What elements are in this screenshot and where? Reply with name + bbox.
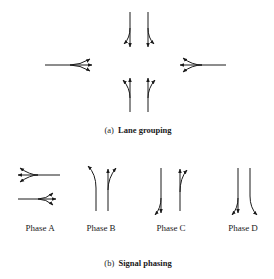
caption-a-text: Lane grouping (118, 125, 171, 135)
caption-b-text: Signal phasing (119, 258, 172, 268)
caption-lane-grouping: (a) Lane grouping (104, 125, 171, 135)
west-approach-arrow (45, 59, 92, 71)
caption-b-letter: (b) (104, 258, 114, 268)
phase-d-label: Phase D (228, 223, 258, 233)
phase-d-diagram (232, 168, 257, 215)
phase-b-diagram (88, 166, 116, 211)
caption-signal-phasing: (b) Signal phasing (104, 258, 171, 268)
phase-b-label: Phase B (86, 223, 115, 233)
south-approach-left-lane-arrow (123, 78, 130, 112)
south-approach-right-lane-arrow (148, 78, 155, 112)
north-approach-left-lane-arrow (124, 12, 130, 47)
north-approach-right-lane-arrow (148, 12, 154, 47)
phase-a-diagram (18, 168, 60, 205)
lane-grouping-diagram (0, 0, 274, 279)
east-approach-arrow (180, 58, 226, 72)
phase-a-label: Phase A (25, 223, 54, 233)
phase-c-label: Phase C (156, 223, 185, 233)
phase-c-diagram (155, 168, 187, 215)
caption-a-letter: (a) (104, 125, 113, 135)
